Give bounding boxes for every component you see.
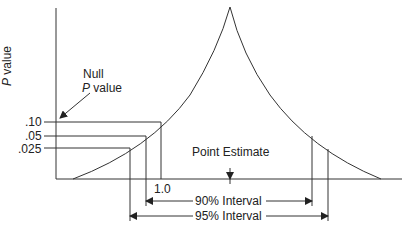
null-label-value: value (90, 81, 122, 95)
y-axis-label: P value (0, 46, 14, 86)
interval-95-label: 95% Interval (195, 210, 262, 222)
interval-90-label: 90% Interval (195, 195, 262, 207)
p-tick-005: .05 (25, 130, 42, 142)
p-tick-010: .10 (25, 116, 42, 128)
y-axis-label-value: value (0, 46, 14, 78)
null-value-label: 1.0 (154, 183, 171, 195)
null-label-p: P (82, 81, 90, 95)
null-label-line2: P value (82, 82, 122, 94)
null-pointer-arrow (60, 93, 90, 118)
y-axis-label-p: P (0, 78, 14, 86)
p-value-function-diagram: P value Null P value .10 .05 .025 1.0 Po… (0, 0, 408, 229)
point-estimate-label: Point Estimate (192, 146, 269, 158)
p-tick-0025: .025 (18, 143, 41, 155)
null-label-line1: Null (83, 68, 104, 80)
